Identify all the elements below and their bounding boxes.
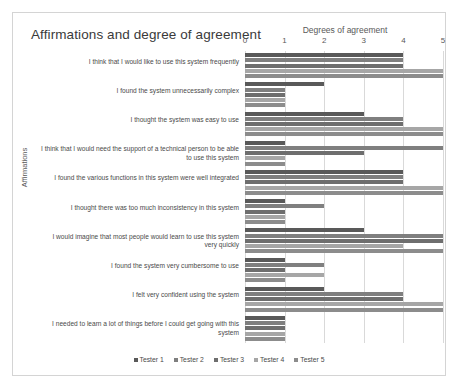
category-label: I found the various functions in this sy… [41, 174, 239, 182]
x-tick-label: 1 [282, 36, 286, 45]
legend-swatch [134, 358, 138, 362]
chart-title: Affirmations and degree of agreement [31, 27, 261, 42]
category-label: I found the system unnecessarily complex [41, 87, 239, 95]
bar [245, 337, 285, 341]
bar [245, 210, 285, 214]
legend-label: Tester 1 [140, 356, 164, 363]
legend-item[interactable]: Tester 2 [174, 355, 204, 363]
bar [245, 186, 443, 190]
category-label: I thought the system was easy to use [41, 116, 239, 124]
bar-group: I thought the system was easy to use [245, 112, 443, 137]
bar [245, 228, 364, 232]
bar [245, 74, 443, 78]
bar [245, 58, 403, 62]
category-label: I needed to learn a lot of things before… [41, 320, 239, 337]
bar [245, 132, 443, 136]
legend-label: Tester 4 [260, 356, 284, 363]
legend-item[interactable]: Tester 4 [254, 355, 284, 363]
plot-inner: 012345I think that I would like to use t… [245, 51, 443, 343]
bar [245, 204, 324, 208]
x-tick-label: 0 [243, 36, 247, 45]
chart-container: Affirmations and degree of agreement Deg… [12, 12, 446, 376]
plot-area: 012345I think that I would like to use t… [245, 51, 443, 343]
bar [245, 122, 403, 126]
bar [245, 234, 443, 238]
bar [245, 151, 364, 155]
category-label: I felt very confident using the system [41, 291, 239, 299]
legend-label: Tester 2 [180, 356, 204, 363]
bar-group: I felt very confident using the system [245, 287, 443, 312]
bar [245, 308, 443, 312]
bar [245, 292, 403, 296]
legend-item[interactable]: Tester 5 [294, 355, 324, 363]
bar [245, 316, 285, 320]
bar [245, 239, 443, 243]
category-label: I think that I would need the support of… [41, 145, 239, 162]
bar [245, 156, 285, 160]
bar-group: I would imagine that most people would l… [245, 228, 443, 253]
bar-group: I thought there was too much inconsisten… [245, 199, 443, 224]
bar [245, 175, 403, 179]
legend-swatch [214, 358, 218, 362]
bar [245, 112, 364, 116]
bar [245, 98, 285, 102]
legend-item[interactable]: Tester 1 [134, 355, 164, 363]
x-tick-label: 2 [322, 36, 326, 45]
chart-legend: Tester 1Tester 2Tester 3Tester 4Tester 5 [13, 355, 445, 363]
legend-swatch [174, 358, 178, 362]
x-tick-label: 4 [401, 36, 405, 45]
bar [245, 273, 324, 277]
bar-group: I found the system very cumbersome to us… [245, 258, 443, 283]
x-tick-label: 3 [362, 36, 366, 45]
category-label: I would imagine that most people would l… [41, 233, 239, 250]
bar [245, 53, 403, 57]
category-label: I thought there was too much inconsisten… [41, 204, 239, 212]
bar [245, 278, 285, 282]
bar [245, 287, 324, 291]
y-axis-title: Affirmations [20, 133, 29, 203]
legend-item[interactable]: Tester 3 [214, 355, 244, 363]
bar [245, 249, 443, 253]
bar [245, 263, 324, 267]
bar [245, 191, 443, 195]
bar [245, 180, 403, 184]
bar [245, 321, 285, 325]
bar [245, 127, 443, 131]
bar [245, 64, 403, 68]
bar [245, 268, 285, 272]
category-label: I think that I would like to use this sy… [41, 58, 239, 66]
bar [245, 258, 285, 262]
bar [245, 162, 285, 166]
category-label: I found the system very cumbersome to us… [41, 262, 239, 270]
bar-group: I found the system unnecessarily complex [245, 82, 443, 107]
bar [245, 117, 403, 121]
bar [245, 170, 403, 174]
bar [245, 93, 285, 97]
bar [245, 297, 403, 301]
bar [245, 326, 285, 330]
bar [245, 103, 285, 107]
bar [245, 244, 403, 248]
bar [245, 220, 285, 224]
bar [245, 88, 285, 92]
bar-group: I found the various functions in this sy… [245, 170, 443, 195]
bar [245, 82, 324, 86]
legend-label: Tester 5 [300, 356, 324, 363]
bar-group: I think that I would like to use this sy… [245, 53, 443, 78]
legend-label: Tester 3 [220, 356, 244, 363]
bar [245, 141, 285, 145]
bar [245, 199, 285, 203]
bar-group: I think that I would need the support of… [245, 141, 443, 166]
bar [245, 69, 443, 73]
bar [245, 146, 443, 150]
legend-swatch [294, 358, 298, 362]
bar [245, 215, 285, 219]
gridline [443, 51, 444, 343]
bar [245, 332, 285, 336]
legend-swatch [254, 358, 258, 362]
x-tick-label: 5 [441, 36, 445, 45]
bar-group: I needed to learn a lot of things before… [245, 316, 443, 341]
bar [245, 302, 443, 306]
x-axis-title: Degrees of agreement [243, 25, 447, 35]
